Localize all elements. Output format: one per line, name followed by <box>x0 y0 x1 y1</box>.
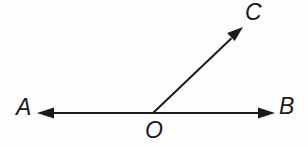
vertex-label-b: B <box>279 95 294 118</box>
ray-oc <box>153 27 243 113</box>
ray-ob-arrowhead <box>258 108 275 119</box>
angle-diagram-figure: A B C O <box>0 0 308 146</box>
vertex-label-a: A <box>16 96 31 119</box>
ray-ob <box>153 108 275 119</box>
ray-oc-shaft <box>153 38 232 113</box>
vertex-label-c: C <box>245 1 262 24</box>
ray-oa <box>37 108 153 119</box>
vertex-label-o: O <box>145 119 163 142</box>
ray-oa-arrowhead <box>37 108 54 119</box>
